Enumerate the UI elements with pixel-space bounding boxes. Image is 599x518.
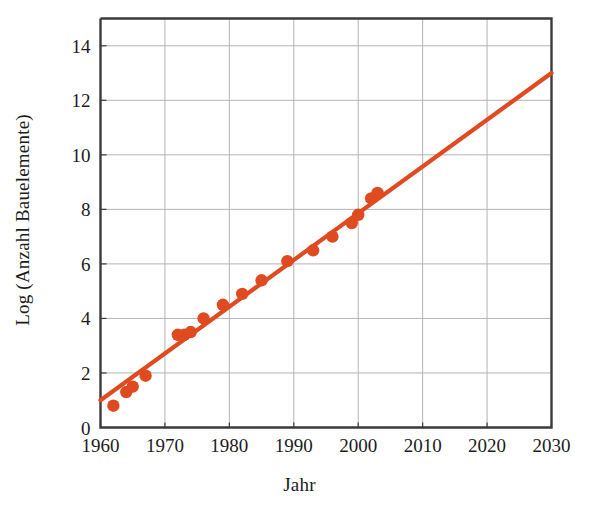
data-point xyxy=(236,288,248,300)
data-point xyxy=(307,244,319,256)
data-point xyxy=(185,326,197,338)
data-point xyxy=(197,312,209,324)
y-axis-label-container: Log (Anzahl Bauelemente) xyxy=(0,0,46,440)
y-tick-label: 4 xyxy=(81,308,91,329)
data-point xyxy=(281,255,293,267)
y-tick-label: 0 xyxy=(81,418,91,439)
data-point xyxy=(371,187,383,199)
x-axis-label: Jahr xyxy=(0,474,599,496)
x-tick-label: 1990 xyxy=(275,435,313,456)
data-point xyxy=(107,399,119,411)
scatter-plot: 19601970198019902000201020202030 0246810… xyxy=(0,0,599,518)
y-tick-label: 10 xyxy=(72,145,91,166)
data-point xyxy=(255,274,267,286)
x-tick-label: 2020 xyxy=(468,435,506,456)
x-tick-label: 2030 xyxy=(533,435,571,456)
data-point xyxy=(139,369,151,381)
y-tick-label: 2 xyxy=(81,363,91,384)
data-point xyxy=(352,209,364,221)
chart-figure: 19601970198019902000201020202030 0246810… xyxy=(0,0,599,518)
x-tick-label: 2010 xyxy=(404,435,442,456)
data-point xyxy=(326,230,338,242)
y-axis-label: Log (Anzahl Bauelemente) xyxy=(12,114,34,326)
data-point xyxy=(217,299,229,311)
data-point xyxy=(127,380,139,392)
y-tick-label: 14 xyxy=(72,36,92,57)
x-tick-label: 1980 xyxy=(210,435,248,456)
y-tick-label: 8 xyxy=(81,199,91,220)
x-tick-label: 2000 xyxy=(339,435,377,456)
y-tick-label: 12 xyxy=(72,90,91,111)
y-tick-label: 6 xyxy=(81,254,91,275)
x-tick-label: 1970 xyxy=(146,435,184,456)
